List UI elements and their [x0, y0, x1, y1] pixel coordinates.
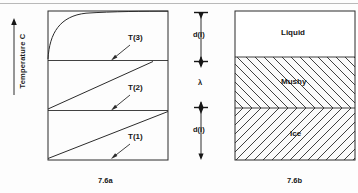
zone-label-liquid: Liquid [281, 28, 305, 37]
figure-container: Temperature C [0, 0, 358, 193]
curve-label-t1: T(1) [128, 132, 143, 141]
curve-label-t3: T(3) [128, 33, 143, 42]
zone-label-ice: Ice [290, 129, 301, 138]
caption-panel-a: 7.6a [98, 176, 113, 185]
pointer-t3 [111, 45, 130, 61]
curve-t3 [48, 11, 168, 59]
up-arrow-icon [11, 18, 17, 25]
pointer-t1 [111, 144, 130, 159]
dim-arrow-down-top-icon [198, 56, 203, 62]
dim-label-liquid-depth: d(l) [193, 30, 205, 39]
panel-a-frame [48, 11, 168, 160]
dim-arrow-down-bottom-icon [198, 153, 203, 160]
curve-t1 [48, 112, 168, 159]
dim-arrow-up-top-icon [198, 13, 203, 19]
dim-arrow-down-mid-icon [198, 101, 203, 107]
y-axis-arrow-group [11, 18, 17, 95]
dim-arrow-up-mid-icon [198, 62, 203, 68]
dim-label-mushy-thickness: λ [198, 78, 202, 87]
dim-arrow-up-bottom-icon [198, 108, 203, 114]
zone-label-mushy: Mushy [281, 77, 306, 86]
caption-panel-b: 7.6b [287, 176, 302, 185]
dim-label-ice-depth: d(i) [193, 125, 205, 134]
pointer-t2 [111, 95, 130, 111]
curve-label-t2: T(2) [128, 83, 143, 92]
